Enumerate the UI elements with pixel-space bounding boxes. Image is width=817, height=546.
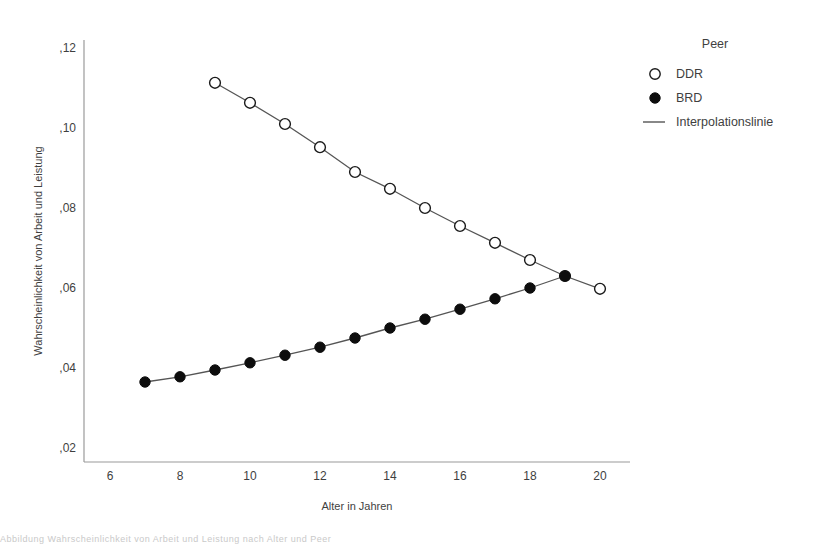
legend-marker-filled-circle-icon — [650, 93, 660, 103]
data-point-brd — [175, 372, 185, 382]
y-tick-label: ,08 — [59, 201, 76, 215]
data-point-ddr — [385, 183, 396, 194]
data-point-ddr — [350, 167, 361, 178]
data-point-ddr — [280, 119, 291, 130]
data-point-brd — [315, 342, 325, 352]
x-tick-label: 6 — [107, 469, 114, 483]
data-point-brd — [455, 304, 465, 314]
data-point-ddr — [210, 77, 221, 88]
data-point-brd — [560, 271, 570, 281]
y-axis-title: Wahrscheinlichkeit von Arbeit und Leistu… — [32, 146, 44, 355]
x-tick-label: 14 — [383, 469, 397, 483]
data-point-brd — [140, 377, 150, 387]
data-point-ddr — [420, 203, 431, 214]
data-point-brd — [420, 314, 430, 324]
y-axis-ticks: ,02,04,06,08,10,12 — [59, 41, 76, 455]
series-line-ddr — [215, 83, 600, 289]
x-tick-label: 12 — [313, 469, 327, 483]
y-tick-label: ,10 — [59, 121, 76, 135]
x-tick-label: 16 — [453, 469, 467, 483]
data-point-ddr — [490, 237, 501, 248]
series-line-brd — [145, 276, 565, 382]
data-point-brd — [525, 283, 535, 293]
legend-marker-open-circle-icon — [650, 69, 660, 79]
y-tick-label: ,02 — [59, 441, 76, 455]
x-axis-ticks: 68101214161820 — [107, 469, 607, 483]
data-point-brd — [210, 365, 220, 375]
data-point-brd — [350, 333, 360, 343]
chart-legend: Peer DDRBRDInterpolationslinie — [643, 37, 773, 129]
data-point-ddr — [245, 97, 256, 108]
data-point-brd — [245, 358, 255, 368]
data-point-brd — [385, 323, 395, 333]
x-tick-label: 10 — [243, 469, 257, 483]
data-point-brd — [280, 350, 290, 360]
x-tick-label: 18 — [523, 469, 537, 483]
legend-entry-label: BRD — [676, 91, 702, 105]
legend-title: Peer — [702, 37, 728, 51]
scatter-line-chart: ,02,04,06,08,10,12 68101214161820 Alter … — [0, 0, 817, 546]
chart-container: ,02,04,06,08,10,12 68101214161820 Alter … — [0, 0, 817, 546]
y-tick-label: ,12 — [59, 41, 76, 55]
legend-entry-label: Interpolationslinie — [676, 115, 773, 129]
footer-caption-strip: Abbildung Wahrscheinlichkeit von Arbeit … — [0, 532, 817, 546]
data-point-ddr — [595, 283, 606, 294]
legend-entry-list: DDRBRDInterpolationslinie — [643, 67, 773, 129]
x-axis-title: Alter in Jahren — [322, 500, 393, 512]
series-lines — [145, 83, 600, 382]
x-tick-label: 20 — [593, 469, 607, 483]
y-tick-label: ,04 — [59, 361, 76, 375]
footer-caption: Abbildung Wahrscheinlichkeit von Arbeit … — [0, 532, 817, 546]
data-point-ddr — [455, 221, 466, 232]
y-tick-label: ,06 — [59, 281, 76, 295]
data-point-ddr — [525, 255, 536, 266]
legend-entry-label: DDR — [676, 67, 703, 81]
series-markers — [140, 77, 606, 387]
x-tick-label: 8 — [177, 469, 184, 483]
data-point-brd — [490, 294, 500, 304]
data-point-ddr — [315, 142, 326, 153]
